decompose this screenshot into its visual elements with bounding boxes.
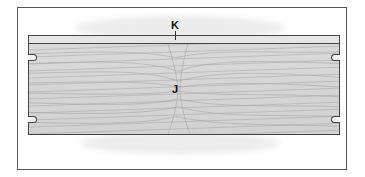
mounting-slot-left-top bbox=[28, 54, 37, 61]
label-j: J bbox=[172, 84, 178, 95]
leader-line-k bbox=[175, 31, 176, 40]
mounting-slot-left-bottom bbox=[28, 116, 37, 123]
wood-grain-pattern bbox=[29, 44, 339, 134]
mounting-slot-right-top bbox=[331, 54, 340, 61]
background-smudge bbox=[80, 132, 280, 154]
mounting-slot-right-bottom bbox=[331, 116, 340, 123]
label-k: K bbox=[171, 20, 179, 31]
wood-panel bbox=[28, 43, 340, 135]
panel-top-edge bbox=[28, 35, 340, 43]
